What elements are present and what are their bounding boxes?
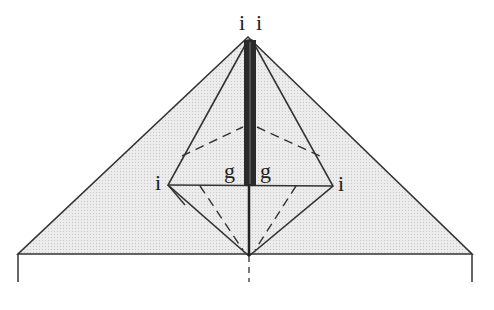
fold-diagram bbox=[0, 0, 494, 310]
label-top-right: i bbox=[256, 12, 262, 34]
label-mid-right: i bbox=[338, 173, 344, 195]
label-center-right: g bbox=[260, 160, 271, 182]
label-mid-left: i bbox=[155, 172, 161, 194]
label-top-left: i bbox=[239, 12, 245, 34]
label-center-left: g bbox=[224, 160, 235, 182]
